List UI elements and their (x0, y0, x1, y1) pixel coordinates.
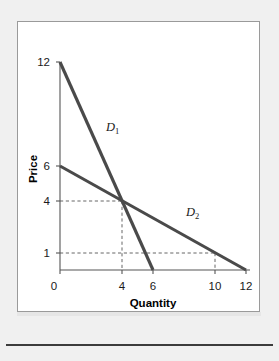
curve-d1 (60, 62, 153, 270)
curve-d2 (60, 166, 246, 270)
x-tick-label-12: 12 (240, 280, 253, 292)
x-axis-ticks (60, 270, 246, 274)
demand-curve-chart: 12 6 4 1 0 4 6 10 12 D1 D2 Quantity Pric… (18, 22, 261, 313)
y-tick-label-6: 6 (44, 160, 50, 172)
y-tick-label-1: 1 (44, 247, 50, 259)
y-tick-labels: 12 6 4 1 (37, 56, 50, 259)
chart-panel: 12 6 4 1 0 4 6 10 12 D1 D2 Quantity Pric… (17, 21, 260, 312)
x-tick-label-6: 6 (150, 280, 156, 292)
x-tick-label-10: 10 (209, 280, 222, 292)
bottom-divider (6, 344, 273, 346)
curve-labels-group: D1 D2 (105, 120, 199, 221)
y-tick-label-12: 12 (37, 56, 50, 68)
y-axis-title: Price (27, 155, 39, 183)
axes-group (60, 62, 250, 270)
figure-page: 12 6 4 1 0 4 6 10 12 D1 D2 Quantity Pric… (0, 0, 279, 361)
y-tick-label-4: 4 (44, 195, 51, 207)
x-axis-title: Quantity (130, 297, 177, 309)
curve-label-d2: D2 (185, 205, 199, 221)
x-tick-label-4: 4 (119, 280, 126, 292)
curves-group (60, 62, 246, 270)
y-axis-ticks (56, 62, 60, 253)
panel-shadow (17, 312, 261, 316)
x-tick-label-0: 0 (51, 280, 57, 292)
curve-label-d1: D1 (105, 120, 119, 136)
x-tick-labels: 0 4 6 10 12 (51, 280, 253, 292)
